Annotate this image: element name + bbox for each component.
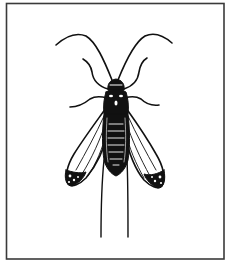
insect-illustration (0, 0, 229, 265)
illustration-frame (0, 0, 229, 265)
